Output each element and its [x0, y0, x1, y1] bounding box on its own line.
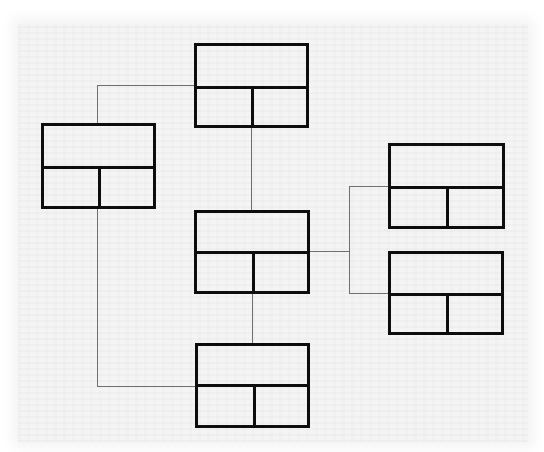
- diagram-canvas: [0, 0, 544, 452]
- node-top-cell-right: [254, 89, 306, 125]
- node-bottom-cell-right: [256, 387, 307, 425]
- node-center-cell-right: [255, 254, 307, 291]
- node-center-header: [197, 213, 307, 251]
- node-center-cell-left: [197, 254, 252, 291]
- node-bottom-header: [198, 346, 307, 384]
- node-top: [194, 43, 309, 128]
- connector-left-to-bottom-horizontal: [97, 386, 197, 387]
- connector-center-to-bottom: [252, 292, 253, 345]
- node-top-header: [197, 46, 306, 86]
- node-left-cell-left: [44, 169, 98, 206]
- connector-top-to-left-vertical: [97, 85, 98, 125]
- node-top-cell-left: [197, 89, 251, 125]
- node-bottom: [195, 343, 310, 428]
- node-left-header: [44, 126, 153, 166]
- node-right-top-cell-right: [449, 189, 502, 226]
- node-right-top: [388, 143, 505, 229]
- node-right-bottom-cell-right: [449, 296, 501, 332]
- connector-bracket-to-right-bottom: [349, 293, 390, 294]
- connector-bracket-vertical: [349, 186, 350, 294]
- node-left: [41, 123, 156, 209]
- connector-top-to-center: [251, 126, 252, 212]
- connector-bracket-to-right-top: [349, 186, 390, 187]
- connector-left-to-bottom-vertical: [97, 207, 98, 386]
- node-right-top-cell-left: [391, 189, 446, 226]
- node-right-bottom-header: [391, 254, 501, 293]
- node-center: [194, 210, 310, 294]
- connector-top-to-left-horizontal: [98, 85, 195, 86]
- node-right-bottom-cell-left: [391, 296, 446, 332]
- node-right-bottom: [388, 251, 504, 335]
- node-bottom-cell-left: [198, 387, 253, 425]
- node-right-top-header: [391, 146, 502, 186]
- connector-center-to-bracket: [308, 251, 350, 252]
- node-left-cell-right: [101, 169, 153, 206]
